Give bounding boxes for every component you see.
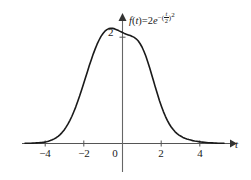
formula-fraction: t2 [164,11,168,26]
x-tick-label-0: 0 [112,148,118,159]
x-tick-label-minus2: −2 [78,148,90,159]
formula-exponent: −(t2)2 [158,14,175,22]
y-tick-label-2: 2 [108,27,114,38]
chart-figure: 2 −4 −2 0 2 4 t f(t)=2e−(t2)2 [0,0,251,180]
y-axis-arrowhead [119,13,127,21]
function-formula-label: f(t)=2e−(t2)2 [129,11,175,27]
x-axis-label: t [235,139,238,150]
x-tick-label-2: 2 [158,148,164,159]
gaussian-curve [25,28,224,143]
x-tick-label-4: 4 [197,148,203,159]
formula-exp-power: 2 [171,11,175,19]
formula-fraction-denominator: 2 [164,18,168,25]
plot-canvas [0,0,251,180]
x-tick-label-minus4: −4 [39,148,51,159]
